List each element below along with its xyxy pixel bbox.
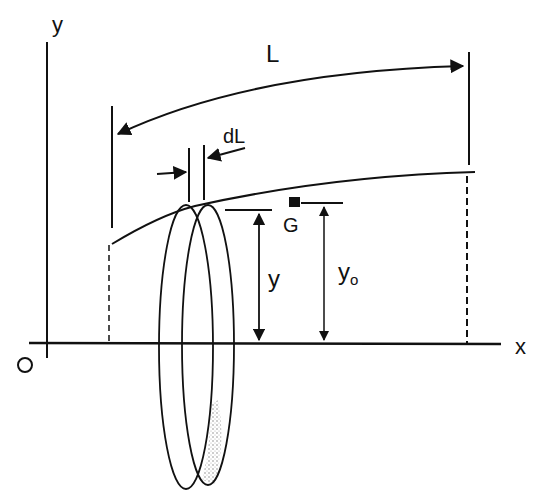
y0-subscript: o — [350, 271, 358, 288]
dL-label: dL — [223, 125, 245, 147]
disc-front-ellipse — [159, 205, 213, 489]
y0-main: y — [338, 258, 350, 285]
dL-arrow-left — [157, 172, 186, 174]
centroid-G-label: G — [283, 214, 299, 236]
disc-back-ellipse — [182, 205, 234, 485]
y-dimension-label: y — [268, 265, 280, 292]
length-L-arrow — [118, 66, 463, 134]
dL-arrow-right — [208, 148, 245, 158]
x-axis-label: x — [515, 334, 526, 359]
length-L-label: L — [266, 40, 279, 67]
origin-marker — [18, 358, 32, 372]
y0-dimension-label: yo — [338, 258, 358, 288]
surface-of-revolution-diagram: y x L dL y G yo — [0, 0, 549, 502]
y-axis-label: y — [52, 12, 63, 37]
x-axis-line — [29, 343, 501, 344]
centroid-G-marker — [289, 197, 300, 207]
